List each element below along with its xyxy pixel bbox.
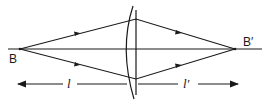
object-point-dot: [19, 48, 22, 51]
image-distance-label: l′: [183, 77, 189, 90]
object-distance-label: l: [67, 77, 71, 90]
image-point-label: B′: [243, 36, 253, 48]
diagram-drawing: [0, 0, 271, 104]
lens-ray-diagram: B B′ l l′: [0, 0, 271, 104]
object-point-label: B: [9, 53, 17, 65]
image-point-dot: [234, 48, 237, 51]
